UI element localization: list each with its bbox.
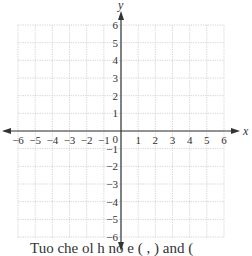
x-tick-label: −5 bbox=[29, 134, 41, 146]
y-tick-label: −5 bbox=[106, 213, 118, 225]
axes bbox=[2, 11, 240, 251]
y-tick-label: −3 bbox=[106, 178, 118, 190]
x-axis-label: x bbox=[242, 124, 249, 138]
caption-text: Tuo che ol h no e ( , ) and ( bbox=[0, 240, 252, 256]
x-axis-left-arrow-icon bbox=[2, 128, 11, 134]
y-tick-label: 2 bbox=[113, 90, 119, 102]
x-tick-label: 2 bbox=[153, 134, 159, 146]
y-tick-label: 4 bbox=[113, 54, 119, 66]
x-tick-label: 3 bbox=[170, 134, 176, 146]
tick-labels: xy−6−5−4−3−2−1123456654321−1−2−3−4−5−60 bbox=[12, 0, 249, 243]
x-tick-label: −6 bbox=[12, 134, 24, 146]
x-tick-label: −2 bbox=[81, 134, 93, 146]
y-tick-label: 5 bbox=[113, 37, 119, 49]
y-axis-label: y bbox=[117, 0, 124, 12]
y-tick-label: −4 bbox=[106, 196, 118, 208]
x-tick-label: −3 bbox=[64, 134, 76, 146]
x-tick-label: 5 bbox=[204, 134, 210, 146]
y-tick-label: 3 bbox=[113, 72, 119, 84]
y-tick-label: 1 bbox=[113, 107, 119, 119]
y-tick-label: −2 bbox=[106, 160, 118, 172]
y-tick-label: 6 bbox=[113, 19, 119, 31]
coordinate-plane: xy−6−5−4−3−2−1123456654321−1−2−3−4−5−60 bbox=[0, 0, 252, 256]
x-tick-label: 1 bbox=[135, 134, 141, 146]
y-axis-up-arrow-icon bbox=[118, 11, 124, 20]
x-tick-label: 6 bbox=[221, 134, 227, 146]
x-tick-label: 4 bbox=[187, 134, 193, 146]
x-axis-right-arrow-icon bbox=[231, 128, 240, 134]
origin-label: 0 bbox=[113, 133, 119, 145]
x-tick-label: −4 bbox=[46, 134, 58, 146]
